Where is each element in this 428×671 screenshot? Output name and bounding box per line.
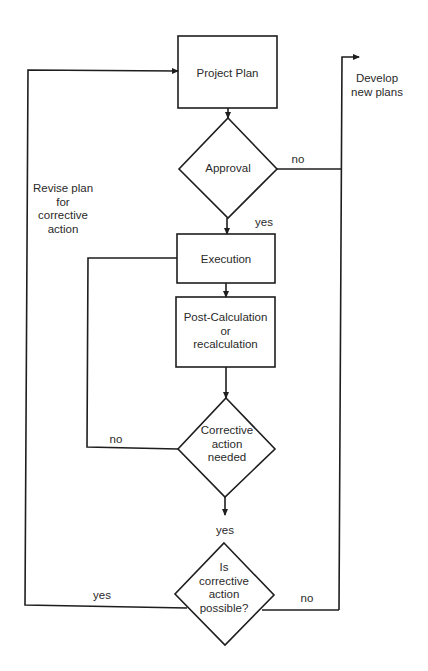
- flowchart: Project Plan Approval Execution Post-Cal…: [0, 0, 428, 671]
- approval-label: Approval: [179, 162, 277, 176]
- develop-new-plans-label: Develop new plans: [346, 72, 408, 99]
- corrective-needed-label: Corrective action needed: [180, 424, 274, 465]
- post-calculation-label: Post-Calculation or recalculation: [170, 311, 281, 352]
- edge-possible-yes: [25, 70, 187, 608]
- possible-yes-label: yes: [90, 589, 114, 603]
- approval-yes-label: yes: [252, 216, 276, 230]
- edge-needed-no: [87, 258, 178, 449]
- revise-plan-label: Revise plan for corrective action: [28, 182, 98, 236]
- edge-develop-new-plans: [339, 57, 359, 610]
- needed-no-label: no: [106, 433, 126, 447]
- execution-label: Execution: [177, 253, 275, 267]
- project-plan-label: Project Plan: [178, 67, 277, 81]
- needed-yes-label: yes: [213, 524, 237, 538]
- possible-no-label: no: [297, 592, 317, 606]
- corrective-possible-label: Is corrective action possible?: [176, 561, 272, 615]
- approval-no-label: no: [288, 153, 308, 167]
